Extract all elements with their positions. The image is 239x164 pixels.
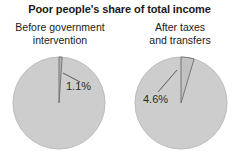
pie-chart-figure: Poor people's share of total income Befo… — [0, 0, 239, 164]
slice-label-before: 1.1% — [66, 80, 91, 92]
pie-charts-svg: 1.1% 4.6% — [0, 0, 239, 164]
pie-chart-after: 4.6% — [135, 57, 227, 149]
slice-label-after: 4.6% — [143, 93, 168, 105]
pie-chart-before: 1.1% — [13, 57, 105, 149]
